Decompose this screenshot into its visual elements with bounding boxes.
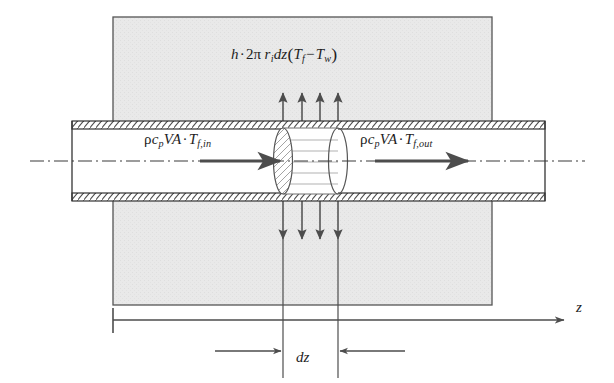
flow-out-temp: T xyxy=(405,131,414,147)
flow-in-velocity: V xyxy=(164,131,172,147)
flow-in-temp: T xyxy=(189,131,198,147)
flow-out-velocity: V xyxy=(380,131,388,147)
flow-out-dot: · xyxy=(397,131,404,147)
flow-out-rho: ρ xyxy=(360,131,368,147)
inlet-enthalpy-flow-term: ρcpVA·Tf,in xyxy=(144,131,211,149)
heat-term-two: 2 xyxy=(246,46,254,62)
pipe-energy-balance-figure: h·2π ridz(Tf−Tw) ρcpVA·Tf,in ρcpVA·Tf,ou… xyxy=(0,0,614,383)
heat-term-minus: − xyxy=(305,46,316,62)
flow-in-rho: ρ xyxy=(144,131,152,147)
convective-heat-transfer-term: h·2π ridz(Tf−Tw) xyxy=(231,44,337,65)
flow-out-temp-subscript: f,out xyxy=(413,138,432,149)
heat-term-close-paren: ) xyxy=(331,44,337,64)
flow-out-cp: c xyxy=(368,131,375,147)
heat-term-h: h xyxy=(231,46,239,62)
flow-in-temp-subscript: f,in xyxy=(197,138,211,149)
heat-term-dot: · xyxy=(239,46,246,62)
differential-length-label: dz xyxy=(296,349,309,366)
heat-term-fluid-temp: T xyxy=(294,46,303,62)
heat-term-pi: π xyxy=(254,46,262,62)
flow-in-cp: c xyxy=(152,131,159,147)
flow-in-dot: · xyxy=(181,131,188,147)
axial-coordinate-label: z xyxy=(576,299,582,316)
heat-term-dz: dz xyxy=(274,46,288,62)
outlet-enthalpy-flow-term: ρcpVA·Tf,out xyxy=(360,131,433,149)
